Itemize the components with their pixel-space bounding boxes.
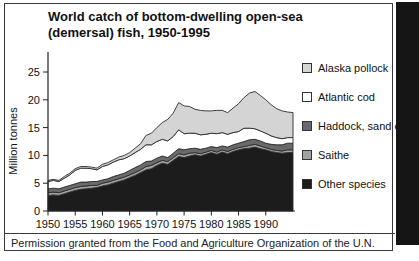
x-tick-label: 1980 (199, 218, 223, 230)
legend-swatch-atlantic-cod (302, 92, 312, 102)
legend-swatch-saithe (302, 150, 312, 160)
legend-label-saithe: Saithe (318, 149, 349, 161)
legend-label-atlantic-cod: Atlantic cod (318, 91, 375, 103)
legend-label-other-species: Other species (318, 178, 386, 190)
y-tick-label: 15 (28, 122, 40, 134)
legend-swatch-haddock-sand-eels (302, 121, 312, 131)
y-tick-label: 0 (34, 205, 40, 217)
legend-label-alaska-pollock: Alaska pollock (318, 62, 388, 74)
y-tick-label: 10 (28, 149, 40, 161)
x-tick-label: 1990 (254, 218, 278, 230)
x-tick-label: 1970 (145, 218, 169, 230)
legend-swatch-alaska-pollock (302, 63, 312, 73)
x-tick-label: 1965 (117, 218, 141, 230)
legend-swatch-other-species (302, 179, 312, 189)
y-tick-label: 20 (28, 94, 40, 106)
x-tick-label: 1950 (36, 218, 60, 230)
x-tick-label: 1960 (90, 218, 114, 230)
y-tick-label: 5 (34, 177, 40, 189)
x-tick-label: 1985 (226, 218, 250, 230)
x-tick-label: 1955 (63, 218, 87, 230)
figure-page: World catch of bottom-dwelling open-sea … (0, 0, 419, 261)
scan-edge-bar (396, 2, 419, 245)
y-tick-label: 25 (28, 66, 40, 78)
x-tick-label: 1975 (172, 218, 196, 230)
permission-caption: Permission granted from the Food and Agr… (11, 237, 375, 249)
y-axis-title: Million tonnes (7, 107, 19, 175)
